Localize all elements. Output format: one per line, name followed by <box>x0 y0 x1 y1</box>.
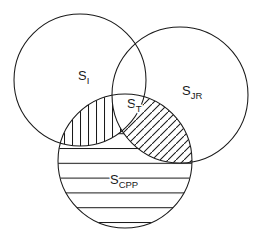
label-set-i-subscript: I <box>87 75 90 86</box>
label-set-jr-base: S <box>182 83 191 98</box>
label-set-t-base: S <box>127 96 136 111</box>
label-set-i-base: S <box>78 68 87 83</box>
venn-diagram: SI SJR ST SCPP <box>0 0 263 247</box>
label-set-t-subscript: T <box>136 103 142 114</box>
label-set-jr-subscript: JR <box>191 90 203 101</box>
label-set-cpp-base: S <box>110 172 119 187</box>
label-set-cpp-subscript: CPP <box>119 179 139 190</box>
